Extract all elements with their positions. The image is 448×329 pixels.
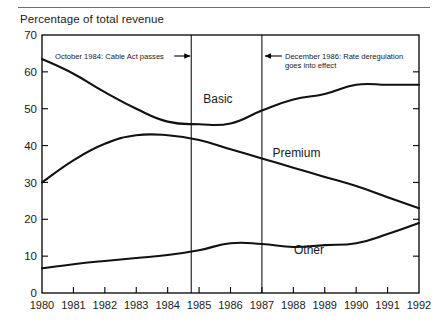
y-axis-tick-label: 20 bbox=[24, 213, 37, 225]
x-axis-tick-label: 1990 bbox=[344, 299, 368, 311]
x-axis-tick-label: 1987 bbox=[250, 299, 274, 311]
series-label-basic: Basic bbox=[203, 92, 232, 106]
y-axis-tick-label: 70 bbox=[24, 29, 37, 41]
y-axis-tick-label: 50 bbox=[24, 103, 37, 115]
annotation-dereg-arrowhead bbox=[265, 53, 271, 59]
y-axis-tick-label: 60 bbox=[24, 66, 37, 78]
x-axis-tick-label: 1985 bbox=[187, 299, 211, 311]
x-axis-tick-label: 1991 bbox=[375, 299, 399, 311]
annotation-cable-act-arrowhead bbox=[184, 53, 190, 59]
line-chart-plot: 0102030405060701980198119821983198419851… bbox=[0, 0, 448, 329]
x-axis-tick-label: 1984 bbox=[155, 299, 179, 311]
plot-frame bbox=[42, 35, 419, 293]
x-axis-tick-label: 1989 bbox=[313, 299, 337, 311]
y-axis-tick-label: 40 bbox=[24, 140, 37, 152]
series-label-premium: Premium bbox=[272, 146, 320, 160]
series-line-other bbox=[42, 223, 419, 268]
series-line-premium bbox=[42, 134, 419, 208]
x-axis-tick-label: 1986 bbox=[218, 299, 242, 311]
x-axis-tick-label: 1980 bbox=[30, 299, 54, 311]
series-label-other: Other bbox=[294, 243, 324, 257]
y-axis-tick-label: 0 bbox=[31, 287, 37, 299]
x-axis-tick-label: 1981 bbox=[61, 299, 85, 311]
chart-figure: Percentage of total revenue 010203040506… bbox=[0, 0, 448, 329]
x-axis-tick-label: 1992 bbox=[407, 299, 431, 311]
annotation-dereg-text-line2: goes into effect bbox=[285, 61, 337, 70]
y-axis-tick-label: 10 bbox=[24, 250, 37, 262]
y-axis-tick-label: 30 bbox=[24, 177, 37, 189]
x-axis-tick-label: 1983 bbox=[124, 299, 148, 311]
x-axis-tick-label: 1982 bbox=[93, 299, 117, 311]
annotation-dereg-text-line1: December 1986: Rate deregulation bbox=[285, 52, 403, 61]
annotation-cable-act-text: October 1984: Cable Act passes bbox=[55, 52, 164, 61]
x-axis-tick-label: 1988 bbox=[281, 299, 305, 311]
